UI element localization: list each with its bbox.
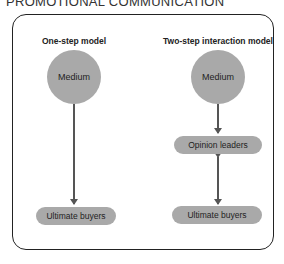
opinion-leaders-label: Opinion leaders (188, 140, 248, 150)
ultimate-buyers-node-one-step: Ultimate buyers (36, 207, 116, 225)
ultimate-buyers-node-two-step: Ultimate buyers (172, 206, 262, 224)
ultimate-buyers-label: Ultimate buyers (187, 210, 246, 220)
ultimate-buyers-label: Ultimate buyers (46, 211, 105, 221)
opinion-leaders-node: Opinion leaders (174, 136, 262, 154)
